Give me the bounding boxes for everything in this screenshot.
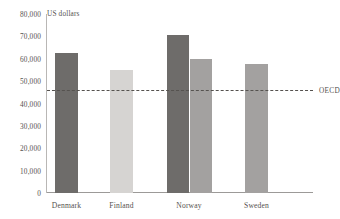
- bar-norway-2[interactable]: [167, 35, 189, 193]
- y-axis-tick-label: 50,000: [20, 77, 41, 86]
- y-axis-tick-label: 60,000: [20, 54, 41, 63]
- x-axis-category-label-finland: Finland: [109, 201, 133, 210]
- x-axis-category-label-norway: Norway: [176, 201, 201, 210]
- y-axis-tick-label: 0: [37, 189, 41, 198]
- y-axis-spine: [46, 14, 47, 193]
- x-axis-category-label-denmark: Denmark: [52, 201, 81, 210]
- bar-sweden-4[interactable]: [245, 64, 268, 193]
- y-axis-tick-label: 40,000: [20, 99, 41, 108]
- bar-norway-3[interactable]: [190, 59, 212, 193]
- bar-finland-1[interactable]: [110, 70, 133, 193]
- y-axis-tick-label: 20,000: [20, 144, 41, 153]
- y-axis-tick-label: 80,000: [20, 10, 41, 19]
- plot-area: 80,00070,00060,00050,00040,00030,00020,0…: [47, 14, 313, 193]
- x-axis-category-label-sweden: Sweden: [244, 201, 269, 210]
- bar-denmark-0[interactable]: [55, 53, 78, 193]
- y-axis-tick-label: 30,000: [20, 121, 41, 130]
- oecd-reference-line: [47, 90, 313, 91]
- oecd-reference-label: OECD: [319, 86, 340, 95]
- y-axis-tick-label: 70,000: [20, 32, 41, 41]
- y-axis-tick-label: 10,000: [20, 166, 41, 175]
